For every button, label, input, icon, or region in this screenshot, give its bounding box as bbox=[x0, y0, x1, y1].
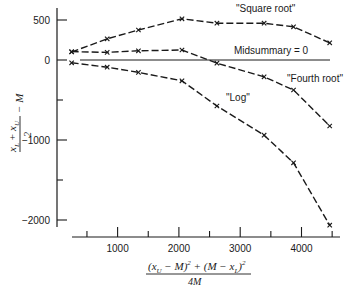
svg-text:− M: − M bbox=[13, 93, 25, 113]
x-marker-icon bbox=[262, 133, 266, 137]
series-line bbox=[72, 63, 330, 225]
x-ticks: 1000200030004000 bbox=[87, 227, 332, 254]
series-label-fourth-root: "Fourth root" bbox=[287, 73, 343, 84]
y-tick-label: 0 bbox=[44, 55, 50, 66]
x-marker-icon bbox=[291, 88, 295, 92]
svg-text:2: 2 bbox=[22, 132, 33, 137]
svg-text:(xU − M)2 + (M − xL)2: (xU − M)2 + (M − xL)2 bbox=[148, 259, 246, 275]
y-ticks: 5000−1000−2000 bbox=[22, 15, 67, 226]
x-tick-label: 4000 bbox=[290, 243, 313, 254]
series-label-log: "Log" bbox=[226, 92, 250, 103]
x-tick-label: 1000 bbox=[106, 243, 129, 254]
midsummary-label: Midsummary = 0 bbox=[234, 45, 309, 56]
x-marker-icon bbox=[215, 104, 219, 108]
x-tick-label: 2000 bbox=[168, 243, 191, 254]
y-tick-label: 500 bbox=[33, 15, 50, 26]
svg-text:xL+xU: xL+xU bbox=[6, 120, 21, 153]
svg-text:4M: 4M bbox=[188, 276, 202, 287]
x-marker-icon bbox=[327, 124, 331, 128]
x-marker-icon bbox=[291, 161, 295, 165]
series-line bbox=[72, 50, 330, 126]
series-label-square-root: "Square root" bbox=[236, 3, 296, 14]
x-tick-label: 3000 bbox=[229, 243, 252, 254]
x-axis-label: (xU − M)2 + (M − xL)2 4M bbox=[146, 259, 251, 287]
x-marker-icon bbox=[327, 223, 331, 227]
y-tick-label: −2000 bbox=[22, 215, 51, 226]
chart: 5000−1000−2000 1000200030004000 Midsumma… bbox=[0, 0, 354, 289]
